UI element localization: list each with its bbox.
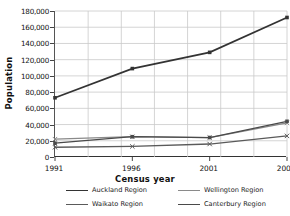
data-point-marker <box>131 67 135 71</box>
x-axis-tick-label: 1996 <box>122 164 140 173</box>
plot-area <box>54 11 286 157</box>
data-point-marker <box>208 51 212 55</box>
data-point-marker <box>208 136 212 140</box>
legend-item-wellington-region[interactable]: Wellington Region <box>178 186 264 194</box>
data-point-marker <box>285 16 289 20</box>
legend-item-auckland-region[interactable]: Auckland Region <box>66 186 147 194</box>
y-axis-tick-label: 100,000 <box>21 71 49 80</box>
y-axis-tick-label: 160,000 <box>21 23 49 32</box>
legend-marker-icon <box>178 200 200 208</box>
y-axis-tick-label: 0 <box>45 153 49 162</box>
y-axis-tick-label: 180,000 <box>21 7 49 16</box>
legend-label: Waikato Region <box>92 200 143 208</box>
population-line-chart: 020,00040,00060,00080,000100,000120,0001… <box>0 0 290 216</box>
x-axis-title: Census year <box>0 174 290 184</box>
y-axis-tick-label: 40,000 <box>25 120 49 129</box>
series-canterbury-region <box>53 120 289 146</box>
legend-label: Auckland Region <box>92 186 147 194</box>
legend-marker-icon <box>66 186 88 194</box>
data-point-marker <box>285 120 289 124</box>
series-waikato-region <box>53 134 289 150</box>
y-axis-tick-label: 80,000 <box>25 88 49 97</box>
y-axis-tick-label: 120,000 <box>21 55 49 64</box>
y-axis-tick-label: 20,000 <box>25 136 49 145</box>
series-line <box>55 17 287 97</box>
data-point-marker <box>53 141 57 145</box>
y-axis-tick-mark <box>50 157 54 158</box>
data-series-layer <box>55 11 287 157</box>
legend-marker-icon <box>66 200 88 208</box>
x-axis-tick-label: 2001 <box>199 164 217 173</box>
legend-item-waikato-region[interactable]: Waikato Region <box>66 200 143 208</box>
y-axis-title: Population <box>4 48 14 118</box>
data-point-marker <box>131 135 135 139</box>
series-wellington-region <box>53 121 289 142</box>
x-axis-tick-label: 1991 <box>45 164 63 173</box>
legend-label: Canterbury Region <box>204 200 266 208</box>
x-axis-tick-label: 2006 <box>277 164 290 173</box>
legend-label: Wellington Region <box>204 186 264 194</box>
legend-item-canterbury-region[interactable]: Canterbury Region <box>178 200 266 208</box>
chart-legend: Auckland RegionWellington RegionWaikato … <box>0 186 290 216</box>
series-auckland-region <box>53 16 289 100</box>
y-axis-tick-label: 140,000 <box>21 39 49 48</box>
legend-marker-icon <box>178 186 200 194</box>
y-axis-tick-label: 60,000 <box>25 104 49 113</box>
data-point-marker <box>53 96 57 100</box>
